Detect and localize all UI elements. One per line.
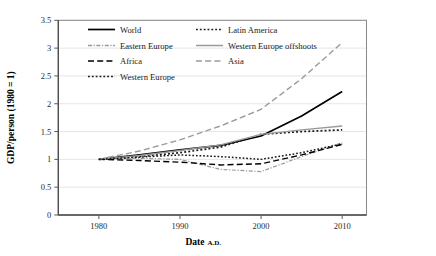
y-axis-title: GDP/person (1980 = 1)	[6, 71, 17, 164]
x-tick-label: 2010	[334, 221, 351, 231]
x-tick-label: 2000	[253, 221, 270, 231]
gdp-per-person-line-chart: 00.511.522.533.51980199020002010GDP/pers…	[0, 0, 436, 256]
y-tick-label: 2	[47, 99, 51, 109]
legend-label-asia: Asia	[228, 56, 244, 66]
legend-label-world: World	[120, 25, 142, 35]
chart-canvas: 00.511.522.533.51980199020002010GDP/pers…	[0, 0, 436, 256]
legend-label-western-europe: Western Europe	[120, 72, 175, 82]
y-tick-label: 1.5	[41, 127, 52, 137]
legend-label-latin-america: Latin America	[228, 25, 278, 35]
y-tick-label: 1	[47, 154, 51, 164]
x-axis-title: Date	[185, 237, 204, 247]
y-tick-label: 0	[47, 210, 51, 220]
x-axis-title-era: A.D.	[207, 239, 221, 247]
chart-background	[0, 0, 436, 256]
y-tick-label: 3.5	[41, 15, 52, 25]
y-tick-label: 3	[47, 43, 51, 53]
legend-label-western-europe-offshoots: Western Europe offshoots	[228, 41, 318, 51]
y-tick-label: 2.5	[41, 71, 52, 81]
x-axis-title-group: DateA.D.	[185, 237, 221, 247]
x-tick-label: 1980	[90, 221, 107, 231]
x-tick-label: 1990	[171, 221, 188, 231]
legend-label-africa: Africa	[120, 56, 142, 66]
legend-label-eastern-europe: Eastern Europe	[120, 41, 173, 51]
y-tick-label: 0.5	[41, 182, 52, 192]
